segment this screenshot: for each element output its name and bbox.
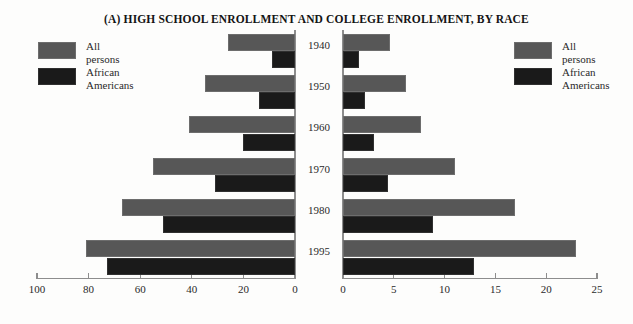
bar-high-school-1950-african-americans [259,92,295,109]
bar-college-1980-all-persons [343,199,515,216]
legend-swatch-african-americans [514,68,552,85]
x-tick-label-high-school-80: 80 [83,283,94,295]
bar-high-school-1940-all-persons [228,34,295,51]
bar-high-school-1970-african-americans [215,175,295,192]
legend-label-all-persons: All persons [562,40,596,65]
bar-high-school-1995-all-persons [86,240,295,257]
bar-college-1995-all-persons [343,240,576,257]
plot-area-college: 0510152025 [343,30,597,278]
legend-swatch-all-persons [38,42,76,59]
chart-title: (A) HIGH SCHOOL ENROLLMENT AND COLLEGE E… [0,13,633,25]
bar-college-1970-all-persons [343,158,455,175]
legend-swatch-all-persons [514,42,552,59]
x-tick-label-college-0: 0 [340,283,346,295]
x-tick-label-high-school-60: 60 [135,283,146,295]
figure: (A) HIGH SCHOOL ENROLLMENT AND COLLEGE E… [0,0,633,324]
x-tick-high-school-80 [88,273,89,279]
bar-college-1960-african-americans [343,134,374,151]
x-tick-label-college-20: 20 [541,283,552,295]
x-tick-high-school-100 [36,273,37,279]
x-tick-label-high-school-40: 40 [186,283,197,295]
legend-label-african-americans: African Americans [562,66,610,91]
x-tick-label-college-25: 25 [592,283,603,295]
bar-high-school-1960-all-persons [189,116,295,133]
bar-high-school-1995-african-americans [107,258,295,275]
bar-college-1940-all-persons [343,34,390,51]
bar-college-1950-african-americans [343,92,365,109]
panel-high-school: 100806040200 Percent with 4 Years of Hig… [0,30,310,324]
bar-high-school-1960-african-americans [243,134,295,151]
bar-college-1960-all-persons [343,116,421,133]
x-tick-label-college-15: 15 [490,283,501,295]
x-tick-label-college-10: 10 [439,283,450,295]
x-axis-line-high-school [37,278,295,279]
x-tick-college-25 [596,273,597,279]
bar-college-1950-all-persons [343,75,406,92]
bar-college-1995-african-americans [343,258,474,275]
bar-college-1970-african-americans [343,175,388,192]
bar-high-school-1980-african-americans [163,216,295,233]
bar-college-1940-african-americans [343,51,359,68]
x-tick-label-high-school-100: 100 [29,283,46,295]
x-tick-college-20 [546,273,547,279]
bar-high-school-1980-all-persons [122,199,295,216]
x-tick-college-15 [495,273,496,279]
legend-label-all-persons: All persons [86,40,120,65]
bar-high-school-1940-african-americans [272,51,295,68]
x-tick-label-college-5: 5 [391,283,397,295]
x-tick-label-high-school-0: 0 [292,283,298,295]
bar-high-school-1970-all-persons [153,158,295,175]
x-tick-label-high-school-20: 20 [238,283,249,295]
legend-label-african-americans: African Americans [86,66,134,91]
x-axis-line-college [343,278,597,279]
legend-swatch-african-americans [38,68,76,85]
panel-college: 0510152025 Percent with 4 Years of Colle… [318,30,633,324]
bar-college-1980-african-americans [343,216,433,233]
bar-high-school-1950-all-persons [205,75,295,92]
